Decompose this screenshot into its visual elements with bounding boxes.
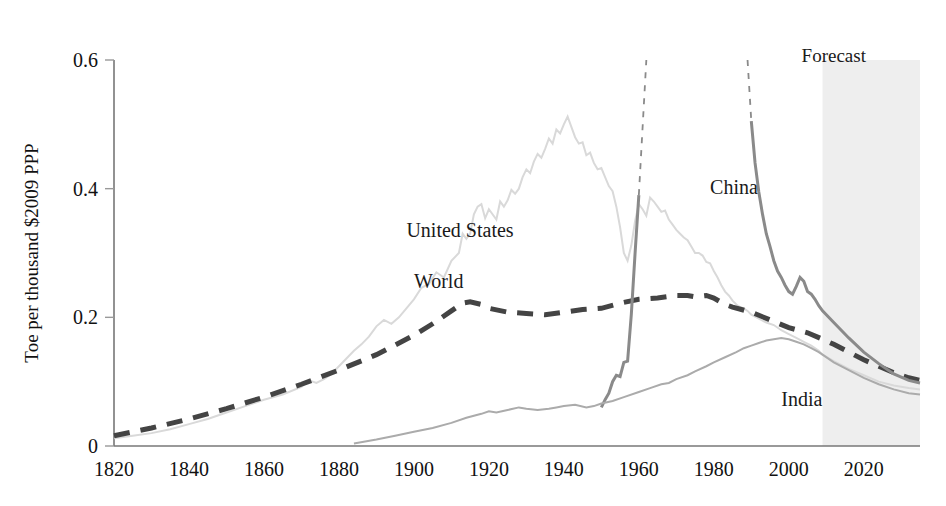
x-tick-label: 1960 [619,458,659,480]
y-tick-marks [105,60,114,446]
x-tick-label: 1980 [694,458,734,480]
y-tick-label: 0.6 [73,49,98,71]
x-tick-label: 2020 [844,458,884,480]
x-tick-label: 1920 [469,458,509,480]
x-tick-label: 1860 [244,458,284,480]
series-line-china-offscale-fall [748,60,752,121]
energy-intensity-line-chart: Forecast 00.20.40.6 Toe per thousand $20… [0,0,946,506]
series-line-china-offscale-rise [639,60,646,195]
x-tick-label: 1940 [544,458,584,480]
x-tick-label: 1880 [319,458,359,480]
x-tick-label: 1840 [169,458,209,480]
x-tick-label: 1820 [94,458,134,480]
series-label-united-states: United States [406,219,513,241]
y-tick-label: 0 [88,435,98,457]
forecast-label: Forecast [802,45,867,66]
series-label-world: World [414,270,464,292]
y-axis-title: Toe per thousand $2009 PPP [21,143,42,362]
x-tick-label: 2000 [769,458,809,480]
series-line-world [114,295,920,435]
y-tick-label: 0.2 [73,306,98,328]
y-tick-labels: 00.20.40.6 [73,49,98,457]
x-tick-labels: 1820184018601880190019201940196019802000… [94,458,884,480]
y-axis: 00.20.40.6 Toe per thousand $2009 PPP [21,49,114,457]
x-tick-label: 1900 [394,458,434,480]
y-tick-label: 0.4 [73,178,98,200]
chart-container: Forecast 00.20.40.6 Toe per thousand $20… [0,0,946,506]
series-label-india: India [781,388,822,410]
x-axis: 1820184018601880190019201940196019802000… [94,446,920,480]
series-inline-labels: United StatesWorldChinaIndia [406,176,822,410]
series-label-china: China [710,176,758,198]
series-paths-group [114,60,920,443]
